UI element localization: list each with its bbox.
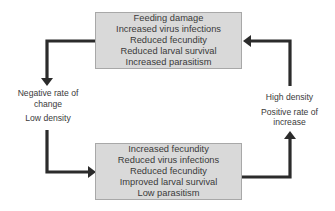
population-cycle-diagram: Feeding damage Increased virus infection… — [0, 0, 335, 211]
effect-line: Feeding damage — [134, 13, 204, 24]
density-label: High density — [244, 92, 335, 103]
low-density-effects-box: Increased fecundity Reduced virus infect… — [95, 143, 242, 200]
rate-label-line2: increase — [244, 117, 335, 128]
rate-label-line1: Positive rate of — [244, 107, 335, 118]
effect-line: Improved larval survival — [120, 177, 218, 188]
effect-line: Increased virus infections — [116, 24, 221, 35]
effect-line: Reduced virus infections — [118, 155, 219, 166]
left-state-label: Negative rate of change Low density — [0, 88, 96, 124]
arrow-bottom-to-right-label — [242, 138, 290, 177]
effect-line: Reduced larval survival — [120, 46, 216, 57]
arrow-left-label-to-bottom — [47, 130, 90, 172]
effect-line: Increased fecundity — [128, 144, 209, 155]
density-label: Low density — [0, 113, 96, 124]
rate-label-line1: Negative rate of — [0, 88, 96, 99]
arrowhead-down-icon — [41, 78, 53, 86]
effect-line: Low parasitism — [137, 188, 199, 199]
rate-label-line2: change — [0, 99, 96, 110]
arrowhead-up-icon — [284, 131, 296, 139]
right-state-label: High density Positive rate of increase — [244, 92, 335, 128]
effect-line: Reduced fecundity — [130, 35, 207, 46]
high-density-effects-box: Feeding damage Increased virus infection… — [95, 12, 242, 69]
effect-line: Reduced fecundity — [130, 166, 207, 177]
arrow-right-label-to-top — [250, 41, 290, 86]
effect-line: Increased parasitism — [126, 57, 212, 68]
arrow-top-to-left-label — [47, 41, 95, 79]
arrowhead-left-icon — [243, 35, 251, 47]
